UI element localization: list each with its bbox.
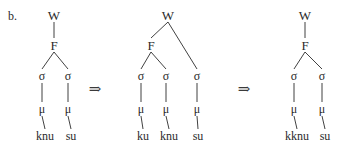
double-arrow-icon: ⇒ <box>89 82 102 97</box>
node-leaf-segment: su <box>66 130 77 142</box>
tree-edge <box>141 116 143 129</box>
double-arrow-icon: ⇒ <box>238 82 251 97</box>
tree-edge <box>54 52 68 69</box>
node-mora: μ <box>138 103 144 115</box>
tree-edge <box>141 52 151 69</box>
node-leaf-segment: su <box>193 130 204 142</box>
panel-label: b. <box>8 10 17 22</box>
node-mora: μ <box>65 103 71 115</box>
node-syllable: σ <box>291 70 297 82</box>
node-syllable: σ <box>319 70 325 82</box>
tree-edge <box>42 52 54 69</box>
node-mora: μ <box>291 103 297 115</box>
node-syllable: σ <box>138 70 144 82</box>
tree-edge <box>168 22 197 69</box>
tree-edge <box>166 116 169 129</box>
prosodic-tree-figure: b. WFσσμμknusuWFσσσμμμkuknusuWFσσμμkknus… <box>0 0 350 151</box>
node-syllable: σ <box>39 70 45 82</box>
tree-edge <box>294 52 305 69</box>
tree-edge <box>42 116 45 129</box>
tree-edge <box>197 116 198 129</box>
node-mora: μ <box>319 103 325 115</box>
node-mora: μ <box>163 103 169 115</box>
node-syllable: σ <box>65 70 71 82</box>
node-leaf-segment: knu <box>160 130 178 142</box>
node-syllable: σ <box>163 70 169 82</box>
node-word: W <box>162 9 174 22</box>
node-word: W <box>48 9 60 22</box>
node-foot: F <box>147 39 154 52</box>
tree-edge <box>68 116 71 129</box>
node-word: W <box>299 9 311 22</box>
node-leaf-segment: su <box>320 130 331 142</box>
node-mora: μ <box>39 103 45 115</box>
node-leaf-segment: knu <box>36 130 54 142</box>
node-mora: μ <box>194 103 200 115</box>
tree-edge <box>305 52 322 69</box>
node-foot: F <box>301 39 308 52</box>
node-foot: F <box>50 39 57 52</box>
node-syllable: σ <box>194 70 200 82</box>
node-leaf-segment: ku <box>137 130 149 142</box>
tree-edge <box>322 116 325 129</box>
tree-edge <box>294 116 297 129</box>
tree-edge <box>151 52 166 69</box>
node-leaf-segment: kknu <box>285 130 309 142</box>
tree-edge <box>151 22 168 38</box>
